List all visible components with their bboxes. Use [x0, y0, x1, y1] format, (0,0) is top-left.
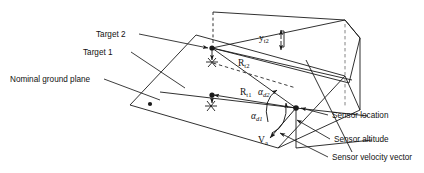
label-sensor-location: Sensor location — [332, 111, 389, 120]
label-sensor-altitude: Sensor altitude — [334, 135, 389, 144]
target2-horizontal-ray — [212, 48, 352, 80]
range-dashed-baseline — [213, 63, 296, 88]
label-nominal-ground-plane: Nominal ground plane — [10, 75, 91, 84]
target2-leader-line — [139, 34, 208, 48]
label-target-2: Target 2 — [96, 30, 126, 39]
diagram-canvas: Target 2 Target 1 Nominal ground plane S… — [0, 0, 424, 173]
target1-ground-projection-asterisk-icon — [205, 101, 217, 111]
label-r-t1: Rt1 — [240, 87, 251, 98]
target2-upper-beam-plane — [212, 20, 360, 83]
target1-leader-line — [131, 52, 185, 88]
label-alpha-d1: αd1 — [251, 111, 263, 122]
ground-plane-outline — [130, 35, 345, 148]
target2-range-line — [212, 48, 296, 108]
label-y-t2: yt2 — [259, 33, 269, 44]
target1-range-line — [214, 95, 296, 108]
upper-slant-plane — [213, 12, 360, 38]
vertical-plane-right — [345, 20, 360, 110]
figure-root: Target 2 Target 1 Nominal ground plane S… — [0, 0, 424, 173]
label-sensor-velocity-vector: Sensor velocity vector — [332, 153, 412, 162]
label-target-1: Target 1 — [83, 48, 113, 57]
label-v-a: Va — [258, 135, 268, 146]
sensor-altitude-leader-line — [297, 120, 330, 139]
label-r-t2: Rt2 — [238, 58, 249, 69]
